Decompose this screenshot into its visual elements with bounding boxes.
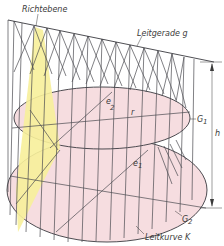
richtebene-label: Richtebene xyxy=(22,5,67,14)
height-label: h xyxy=(215,129,220,138)
svg-text:2: 2 xyxy=(110,104,115,112)
svg-text:1: 1 xyxy=(138,162,142,170)
conoid-diagram: Richtebene Leitgerade g e 2 r G 1 e 1 h … xyxy=(0,0,224,246)
svg-text:1: 1 xyxy=(203,118,207,126)
svg-text:2: 2 xyxy=(188,218,193,226)
leitkurve-label: Leitkurve K xyxy=(145,233,191,242)
leitgerade-label: Leitgerade g xyxy=(137,29,188,38)
g1-label: G 1 xyxy=(197,115,207,126)
